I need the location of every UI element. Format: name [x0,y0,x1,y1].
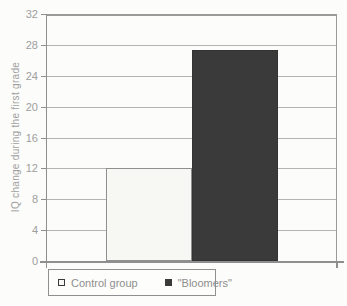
y-tick-label-16: 16 [26,132,38,144]
gridline-28 [47,45,336,46]
y-tick-0 [41,261,46,262]
y-tick-label-24: 24 [26,70,38,82]
y-tick-4 [41,230,46,231]
y-tick-8 [41,199,46,200]
legend-swatch-icon [165,279,172,286]
x-axis-right-tick [336,261,338,268]
legend: Control group"Bloomers" [48,269,216,296]
y-tick-label-32: 32 [26,8,38,20]
y-tick-label-4: 4 [32,224,38,236]
gridline-32 [47,14,336,16]
y-tick-32 [41,14,46,15]
plot-area: 048121620242832 [46,14,337,261]
x-axis-left-tick [46,261,48,268]
y-tick-label-0: 0 [32,255,38,267]
x-axis-line [40,261,344,263]
y-axis-title: IQ change during the first grade [10,62,21,212]
y-tick-12 [41,168,46,169]
y-tick-label-28: 28 [26,39,38,51]
y-tick-label-12: 12 [26,162,38,174]
y-tick-20 [41,107,46,108]
y-tick-24 [41,76,46,77]
y-tick-28 [41,45,46,46]
legend-item-control-group: Control group [58,277,138,289]
legend-swatch-icon [58,279,65,286]
legend-item-bloomers: "Bloomers" [165,277,232,289]
y-tick-16 [41,138,46,139]
y-tick-label-20: 20 [26,101,38,113]
legend-label: Control group [71,277,138,289]
bar-bloomers [192,50,278,261]
bar-control-group [106,168,192,261]
bar-chart: IQ change during the first grade 0481216… [0,0,347,306]
y-tick-label-8: 8 [32,193,38,205]
legend-label: "Bloomers" [178,277,232,289]
